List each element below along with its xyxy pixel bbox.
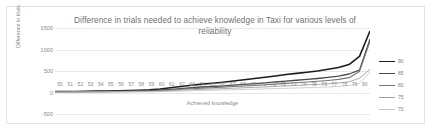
- x-axis-tick-label: 61: [167, 81, 177, 87]
- x-axis-tick-label: 63: [187, 81, 197, 87]
- legend-swatch-icon: [379, 61, 395, 62]
- y-axis-title: Difference in trials: [15, 5, 21, 48]
- x-axis-tick-label: 54: [96, 81, 106, 87]
- legend-swatch-icon: [379, 97, 395, 98]
- x-axis-tick-label: 71: [268, 81, 278, 87]
- y-axis-tick-label: 500: [27, 68, 53, 74]
- legend-label: 75: [398, 94, 404, 100]
- x-axis-tick-label: 62: [177, 81, 187, 87]
- x-axis-tick-label: 64: [197, 81, 207, 87]
- legend-item-90[interactable]: 90: [379, 55, 427, 67]
- x-axis-tick-label: 73: [289, 81, 299, 87]
- x-axis-tick-label: 79: [350, 81, 360, 87]
- legend-item-80[interactable]: 80: [379, 79, 427, 91]
- gridline: [55, 114, 370, 115]
- x-axis-tick-label: 50: [55, 81, 65, 87]
- x-axis-tick-label: 76: [319, 81, 329, 87]
- x-axis-tick-label: 56: [116, 81, 126, 87]
- x-axis-tick-label: 59: [146, 81, 156, 87]
- legend-item-70[interactable]: 70: [379, 103, 427, 115]
- x-axis-tick-label: 55: [106, 81, 116, 87]
- x-axis-tick-label: 78: [339, 81, 349, 87]
- x-axis-tick-label: 53: [85, 81, 95, 87]
- legend-label: 85: [398, 70, 404, 76]
- y-axis-tick-label: 1500: [27, 25, 53, 31]
- y-axis-tick-label: 1000: [27, 47, 53, 53]
- x-axis-tick-label: 69: [248, 81, 258, 87]
- x-axis-tick-label: 58: [136, 81, 146, 87]
- x-axis-tick-label: 77: [329, 81, 339, 87]
- y-axis-tick-label: 0: [27, 90, 53, 96]
- y-axis-tick-label: -500: [27, 111, 53, 117]
- x-axis-tick-label: 80: [360, 81, 370, 87]
- x-axis-tick-label: 52: [75, 81, 85, 87]
- chart-legend: 9085807570: [379, 55, 427, 115]
- x-axis-tick-label: 67: [228, 81, 238, 87]
- plot-area: Difference in trials 150010005000-500 50…: [55, 22, 370, 114]
- x-axis-tick-label: 72: [278, 81, 288, 87]
- x-axis-tick-labels: 5051525354555657585960616263646566676869…: [55, 81, 370, 87]
- legend-label: 90: [398, 58, 404, 64]
- x-axis-tick-label: 65: [207, 81, 217, 87]
- legend-label: 80: [398, 82, 404, 88]
- legend-item-85[interactable]: 85: [379, 67, 427, 79]
- x-axis-tick-label: 66: [218, 81, 228, 87]
- x-axis-tick-label: 74: [299, 81, 309, 87]
- legend-label: 70: [398, 106, 404, 112]
- x-axis-tick-label: 51: [65, 81, 75, 87]
- legend-swatch-icon: [379, 73, 395, 74]
- chart-container: Difference in trials needed to achieve k…: [6, 6, 425, 124]
- x-axis-tick-label: 68: [238, 81, 248, 87]
- legend-swatch-icon: [379, 85, 395, 86]
- x-axis-tick-label: 70: [258, 81, 268, 87]
- x-axis-title: Achieved knowledge: [55, 100, 370, 106]
- legend-item-75[interactable]: 75: [379, 91, 427, 103]
- x-axis-tick-label: 57: [126, 81, 136, 87]
- legend-swatch-icon: [379, 109, 395, 110]
- x-axis-tick-label: 75: [309, 81, 319, 87]
- x-axis-tick-label: 60: [157, 81, 167, 87]
